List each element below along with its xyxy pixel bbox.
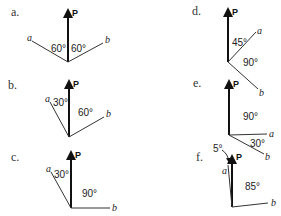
vector-a-label: a: [222, 165, 227, 176]
angle-label: 60°: [78, 107, 93, 118]
vector-p-label: P: [236, 152, 242, 162]
angle-label: 30°: [250, 138, 265, 149]
angle-arc-arrow: [222, 150, 229, 162]
diagram-label: e.: [193, 76, 201, 90]
angle-label: 90°: [82, 188, 97, 199]
vector-b-label: b: [271, 197, 276, 208]
vector-diagrams: a. P a b 60° 60° b. P a b 30° 60° c. P a…: [0, 0, 281, 216]
vector-b: [232, 203, 268, 207]
diagram-c: c. P a b 30° 90°: [11, 150, 117, 213]
angle-label: 30°: [53, 97, 68, 108]
angle-label: 5°: [213, 143, 223, 154]
vector-p-label: P: [75, 150, 81, 160]
vector-a-label: a: [269, 128, 274, 139]
vector-b-label: b: [105, 34, 110, 45]
vector-b-label: b: [259, 87, 264, 98]
diagram-f: f. P a b 5° 85°: [196, 143, 276, 208]
vector-a-label: a: [257, 25, 262, 36]
angle-label: 60°: [71, 43, 86, 54]
angle-label: 90°: [243, 57, 258, 68]
vector-b: [69, 117, 104, 137]
angle-label: 90°: [243, 111, 258, 122]
vector-b-label: b: [265, 151, 270, 162]
vector-p-label: P: [233, 79, 239, 89]
vector-a-label: a: [46, 163, 51, 174]
vector-p-label: P: [73, 79, 79, 89]
angle-label: 30°: [54, 169, 69, 180]
angle-label: 60°: [51, 43, 66, 54]
vector-b-label: b: [106, 108, 111, 119]
diagram-label: f.: [196, 150, 203, 164]
vector-a-label: a: [27, 32, 32, 43]
diagram-label: c.: [11, 150, 19, 164]
vector-a: [229, 134, 267, 135]
vector-a-label: a: [45, 93, 50, 104]
vector-b-label: b: [112, 202, 117, 213]
angle-label: 85°: [245, 181, 260, 192]
diagram-b: b. P a b 30° 60°: [8, 78, 111, 137]
diagram-a: a. P a b 60° 60°: [11, 5, 110, 62]
diagram-label: d.: [192, 4, 201, 18]
diagram-label: a.: [11, 5, 19, 19]
diagram-label: b.: [8, 78, 17, 92]
vector-p-label: P: [232, 7, 238, 17]
vector-p-label: P: [72, 8, 78, 18]
angle-label: 45°: [232, 37, 247, 48]
